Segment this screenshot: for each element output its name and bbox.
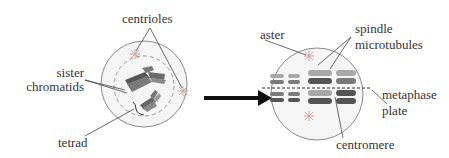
label-metaphase-plate-line2: plate: [382, 104, 407, 117]
label-spindle-microtubules-line2: microtubules: [355, 38, 423, 51]
centriole-icon: [178, 86, 188, 96]
aster-icon: [304, 111, 314, 121]
arrow-icon: [204, 90, 272, 106]
label-aster: aster: [260, 28, 285, 41]
label-spindle-microtubules-line1: spindle: [355, 22, 393, 35]
label-sister-chromatids-line1: sister: [44, 66, 84, 79]
label-centromere: centromere: [336, 138, 394, 151]
label-centrioles: centrioles: [122, 12, 173, 25]
label-metaphase-plate-line1: metaphase: [382, 88, 437, 101]
aster-icon: [304, 51, 314, 61]
label-tetrad: tetrad: [58, 136, 88, 149]
label-sister-chromatids-line2: chromatids: [14, 80, 84, 93]
metaphase-cell: [270, 48, 363, 140]
centriole-icon: [130, 49, 140, 59]
prophase-cell: [101, 41, 188, 127]
